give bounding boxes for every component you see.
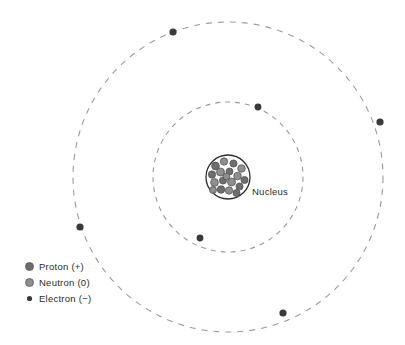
- legend: Proton (+) Neutron (0) Electron (−): [19, 259, 169, 307]
- neutron-particle: [223, 173, 230, 180]
- atom-diagram-canvas: Nucleus Proton (+) Neutron (0): [0, 0, 405, 345]
- proton-marker-icon: [19, 261, 39, 272]
- neutron-particle: [234, 172, 242, 180]
- neutron-particle: [238, 165, 246, 173]
- electron-inner-4: [255, 104, 262, 111]
- electron-outer-0: [169, 28, 176, 35]
- legend-item-neutron: Neutron (0): [19, 275, 169, 290]
- proton-particle: [233, 190, 240, 197]
- proton-particle: [230, 160, 237, 167]
- nucleus-group: [206, 155, 250, 199]
- legend-label-neutron: Neutron (0): [39, 277, 90, 288]
- proton-particle: [236, 183, 243, 190]
- electron-inner-5: [197, 235, 204, 242]
- nucleus-label: Nucleus: [252, 186, 288, 197]
- neutron-marker-icon: [19, 277, 39, 288]
- neutron-particle: [220, 158, 227, 165]
- neutron-particle: [210, 187, 217, 194]
- electron-outer-1: [376, 118, 383, 125]
- legend-label-electron: Electron (−): [39, 293, 91, 304]
- proton-particle: [241, 176, 248, 183]
- legend-item-proton: Proton (+): [19, 259, 169, 274]
- electron-outer-2: [279, 309, 286, 316]
- neutron-particle: [211, 179, 219, 187]
- legend-label-proton: Proton (+): [39, 261, 84, 272]
- legend-item-electron: Electron (−): [19, 291, 169, 306]
- electron-marker-icon: [19, 293, 39, 304]
- electron-outer-3: [76, 223, 83, 230]
- proton-particle: [208, 171, 215, 178]
- proton-particle: [217, 186, 225, 194]
- neutron-particle: [225, 187, 232, 194]
